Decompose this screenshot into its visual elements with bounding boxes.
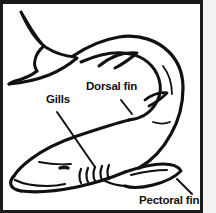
head-upper-contour (14, 120, 129, 176)
label-pectoral-fin: Pectoral fin (139, 195, 199, 207)
pelvic-fin (103, 180, 127, 186)
shark-line-drawing (3, 4, 200, 210)
label-gills: Gills (46, 94, 70, 106)
snout-tip (11, 176, 21, 191)
page-margin-strip (203, 0, 216, 213)
leader-line-pectoral-fin (177, 179, 192, 194)
leader-line-dorsal-fin (121, 100, 132, 114)
body-shading-line (153, 122, 170, 124)
diagram-frame (0, 0, 203, 213)
caudal-fin-upper-lobe (21, 12, 75, 57)
pectoral-fin-crease (131, 170, 167, 175)
gill-slit (80, 169, 82, 183)
pectoral-fin (125, 164, 181, 187)
gill-slit (108, 165, 110, 179)
body-shading-line (163, 66, 172, 94)
gill-slit (101, 166, 103, 180)
caudal-fin-notch (35, 46, 44, 71)
body-shading-line (39, 162, 71, 164)
mouth (15, 180, 65, 186)
gill-slit (94, 167, 96, 181)
body-dorsal-contour (73, 36, 183, 168)
eye (60, 167, 68, 168)
leader-lines (57, 100, 192, 194)
leader-line-gills (57, 112, 95, 167)
gill-slit (87, 168, 89, 182)
caudal-fin-upper-edge (21, 12, 44, 46)
diagram-page: Dorsal fin Gills Pectoral fin (0, 0, 216, 213)
label-dorsal-fin: Dorsal fin (86, 81, 137, 93)
